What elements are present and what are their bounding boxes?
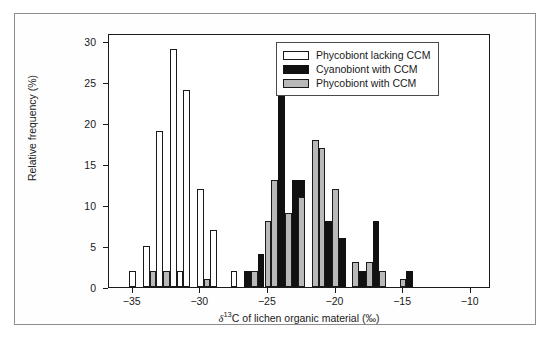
bar (325, 221, 332, 287)
x-axis-tick-label: −20 (313, 296, 357, 307)
bar (332, 189, 339, 287)
legend-label: Phycobiont lacking CCM (316, 49, 430, 61)
x-axis-tick-label: −15 (380, 296, 424, 307)
bar (339, 238, 346, 287)
x-axis-title-text: C of lichen organic material (‰) (232, 312, 380, 324)
bar (163, 271, 170, 287)
bar (359, 271, 366, 287)
x-axis-tick-label: −25 (245, 296, 289, 307)
y-axis-title: Relative frequency (%) (26, 18, 38, 238)
bar (278, 82, 285, 287)
x-axis-tick (132, 288, 133, 293)
y-axis-tick (103, 288, 108, 289)
legend-item: Phycobiont lacking CCM (283, 48, 430, 62)
bar (183, 90, 190, 287)
bar (312, 140, 319, 287)
y-axis-tick-label: 30 (56, 37, 96, 47)
legend-swatch-white (283, 51, 309, 60)
bar (156, 131, 163, 287)
bar (400, 279, 407, 287)
bar (373, 221, 380, 287)
bar (265, 221, 272, 287)
legend-label: Cyanobiont with CCM (316, 63, 418, 75)
x-axis-tick (267, 288, 268, 293)
bar (150, 271, 157, 287)
y-axis-tick-label: 0 (56, 283, 96, 293)
bar (170, 49, 177, 287)
x-axis-tick (470, 288, 471, 293)
x-axis-tick (199, 288, 200, 293)
figure-container: Relative frequency (%) 051015202530 −35−… (0, 0, 550, 341)
y-axis-tick-label: 5 (56, 242, 96, 252)
bar (244, 271, 251, 287)
bar (143, 246, 150, 287)
bar (285, 213, 292, 287)
bar (197, 189, 204, 287)
bar (251, 271, 258, 287)
bar (366, 262, 373, 287)
bar (319, 148, 326, 287)
bar (177, 271, 184, 287)
x-axis-tick (402, 288, 403, 293)
legend-label: Phycobiont with CCM (316, 77, 416, 89)
y-axis-tick-label: 15 (56, 160, 96, 170)
bar (292, 180, 299, 287)
legend-item: Cyanobiont with CCM (283, 62, 430, 76)
legend-item: Phycobiont with CCM (283, 76, 430, 90)
bar (379, 271, 386, 287)
x-axis-tick-label: −10 (448, 296, 492, 307)
y-axis-tick-label: 10 (56, 201, 96, 211)
legend-swatch-gray (283, 79, 309, 88)
x-axis-tick-label: −30 (177, 296, 221, 307)
x-axis-title: δ13C of lichen organic material (‰) (108, 310, 490, 324)
bar (231, 271, 238, 287)
y-axis-tick-label: 25 (56, 78, 96, 88)
legend-swatch-black (283, 65, 309, 74)
bar (210, 230, 217, 287)
bar (271, 180, 278, 287)
x-axis-tick-label: −35 (110, 296, 154, 307)
bar (129, 271, 136, 287)
bar (406, 271, 413, 287)
bar (352, 262, 359, 287)
delta-superscript: 13 (223, 310, 231, 319)
bar (258, 254, 265, 287)
chart-legend: Phycobiont lacking CCMCyanobiont with CC… (276, 42, 439, 96)
y-axis-tick-label: 20 (56, 119, 96, 129)
x-axis-tick (335, 288, 336, 293)
bar (298, 197, 305, 287)
bar (204, 279, 211, 287)
